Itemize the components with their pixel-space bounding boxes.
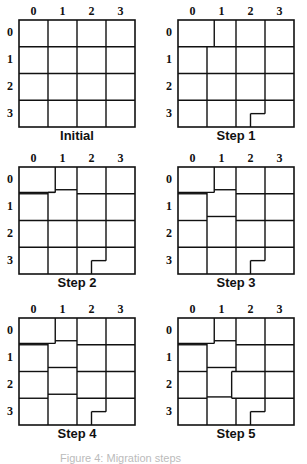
panel-caption: Step 1 xyxy=(178,128,294,143)
panel-caption: Step 3 xyxy=(178,275,294,290)
grid-panel-step-4: 01230123Step 4 xyxy=(0,298,148,448)
panel-caption: Step 5 xyxy=(178,426,294,441)
panel-caption: Step 2 xyxy=(19,275,135,290)
grid-panel-step-2: 01230123Step 2 xyxy=(0,147,148,297)
grid-panel-step-5: 01230123Step 5 xyxy=(159,298,307,448)
grid-panel-step-3: 01230123Step 3 xyxy=(159,147,307,297)
panel-caption: Initial xyxy=(19,128,135,143)
grid-panel-initial: 01230123Initial xyxy=(0,0,148,150)
figure-caption: Figure 4: Migration steps xyxy=(60,452,181,464)
panel-caption: Step 4 xyxy=(19,426,135,441)
grid-panel-step-1: 01230123Step 1 xyxy=(159,0,307,150)
